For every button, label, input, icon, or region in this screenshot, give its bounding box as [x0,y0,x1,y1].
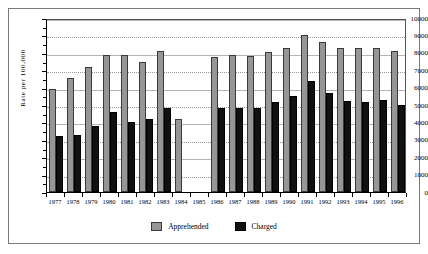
x-axis-tick-label-1988: 1988 [244,198,262,205]
bar-charged-1996 [398,105,405,192]
gridline [47,37,405,38]
chart-legend: ApprehendedCharged [0,222,428,231]
bar-charged-1995 [380,100,387,192]
x-axis-tick-label-1982: 1982 [136,198,154,205]
apprehended-swatch [151,222,162,231]
x-axis-tick-mark [64,193,65,197]
bar-charged-1978 [74,135,81,192]
legend-item-apprehended[interactable]: Apprehended [151,222,208,231]
x-axis-tick-mark [172,193,173,197]
x-axis-tick-mark [406,193,407,197]
x-axis-tick-mark [208,193,209,197]
bar-charged-1979 [92,126,99,192]
x-axis-tick-mark [118,193,119,197]
bar-apprehended-1988 [247,56,254,192]
gridline [47,142,405,143]
legend-item-charged[interactable]: Charged [235,222,277,231]
x-axis-tick-label-1984: 1984 [172,198,190,205]
bar-charged-1990 [290,96,297,192]
bar-apprehended-1983 [157,51,164,192]
x-axis-tick-label-1978: 1978 [64,198,82,205]
bar-charged-1992 [326,93,333,192]
x-axis-tick-mark [352,193,353,197]
x-axis-tick-mark [280,193,281,197]
x-axis-tick-mark [82,193,83,197]
gridline [47,124,405,125]
x-axis-tick-mark [154,193,155,197]
gridline [47,107,405,108]
bar-apprehended-1995 [373,48,380,192]
x-axis-tick-mark [226,193,227,197]
bar-charged-1988 [254,108,261,192]
x-axis-tick-label-1987: 1987 [226,198,244,205]
bar-apprehended-1990 [283,48,290,192]
gridline [47,20,405,21]
bar-apprehended-1977 [49,89,56,192]
bar-charged-1991 [308,81,315,192]
x-axis-tick-mark [316,193,317,197]
x-axis-tick-mark [298,193,299,197]
x-axis-tick-label-1980: 1980 [100,198,118,205]
bar-apprehended-1986 [211,57,218,192]
bar-apprehended-1981 [121,55,128,192]
legend-label: Apprehended [168,222,208,231]
gridline [47,159,405,160]
bar-apprehended-1996 [391,51,398,192]
bar-charged-1980 [110,112,117,192]
x-axis-tick-label-1983: 1983 [154,198,172,205]
x-axis-tick-label-1977: 1977 [46,198,64,205]
x-axis-tick-label-1991: 1991 [298,198,316,205]
bar-apprehended-1993 [337,48,344,192]
bar-apprehended-1994 [355,48,362,192]
plot-area [46,19,406,193]
x-axis-tick-label-1990: 1990 [280,198,298,205]
bar-apprehended-1992 [319,42,326,192]
bar-charged-1993 [344,101,351,192]
bar-charged-1989 [272,102,279,192]
gridline [47,72,405,73]
bar-apprehended-1987 [229,55,236,192]
x-axis-tick-mark [100,193,101,197]
x-axis-tick-mark [334,193,335,197]
bar-apprehended-1978 [67,78,74,192]
gridline [47,90,405,91]
bar-apprehended-1991 [301,35,308,192]
x-axis-tick-mark [370,193,371,197]
x-axis-tick-label-1994: 1994 [352,198,370,205]
x-axis-tick-mark [190,193,191,197]
x-axis-tick-label-1985: 1985 [190,198,208,205]
x-axis-tick-mark [262,193,263,197]
y-axis-title: Rate per 100,000 [19,23,27,133]
x-axis-tick-label-1989: 1989 [262,198,280,205]
bar-charged-1983 [164,108,171,192]
charged-swatch [235,222,246,231]
x-axis-tick-label-1993: 1993 [334,198,352,205]
x-axis-tick-label-1979: 1979 [82,198,100,205]
x-axis-tick-label-1996: 1996 [388,198,406,205]
bar-charged-1994 [362,102,369,192]
bar-apprehended-1980 [103,55,110,192]
bar-apprehended-1984 [175,119,182,192]
bar-charged-1987 [236,108,243,192]
x-axis-tick-label-1986: 1986 [208,198,226,205]
legend-label: Charged [252,222,277,231]
x-axis-tick-mark [46,193,47,197]
bar-apprehended-1989 [265,52,272,192]
bar-charged-1977 [56,136,63,192]
x-axis-tick-mark [388,193,389,197]
x-axis-tick-label-1992: 1992 [316,198,334,205]
chart-figure: Rate per 100,000 01000200030004000500060… [0,0,428,254]
x-axis-tick-mark [244,193,245,197]
bar-charged-1982 [146,119,153,192]
bar-charged-1986 [218,108,225,192]
x-axis-tick-mark [136,193,137,197]
gridline [47,55,405,56]
x-axis-tick-label-1981: 1981 [118,198,136,205]
gridline [47,177,405,178]
x-axis-tick-label-1995: 1995 [370,198,388,205]
bar-charged-1981 [128,122,135,192]
bar-apprehended-1982 [139,62,146,193]
bar-apprehended-1979 [85,67,92,192]
